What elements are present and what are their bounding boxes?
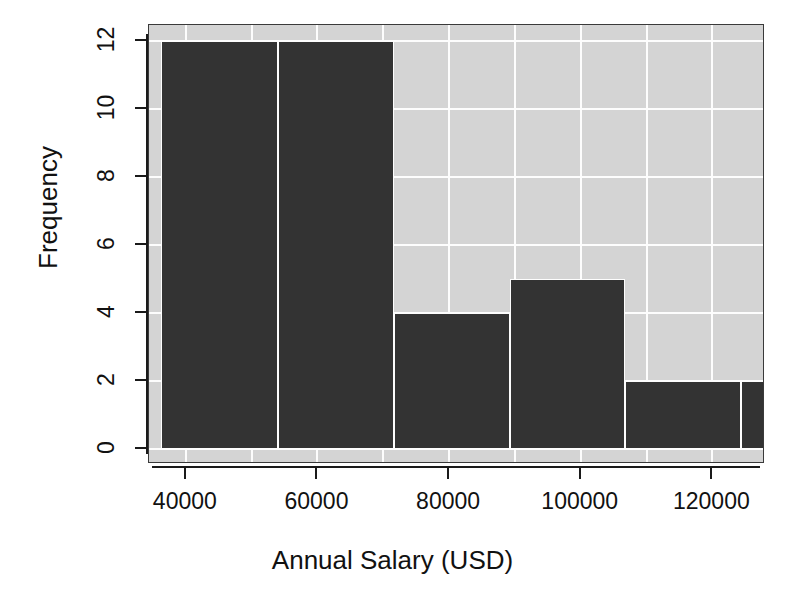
y-tick-label: 4	[93, 289, 120, 333]
y-tick-label: 2	[93, 357, 120, 401]
y-tick-label: 10	[93, 85, 120, 129]
plot-panel	[148, 24, 764, 463]
y-tick-label: 0	[93, 426, 120, 470]
x-tick-label: 60000	[246, 488, 386, 515]
histogram-bar	[394, 313, 510, 449]
y-tick-mark	[135, 39, 146, 41]
y-tick-mark	[135, 379, 146, 381]
x-tick-mark	[579, 467, 581, 479]
y-tick-mark	[135, 243, 146, 245]
x-tick-mark	[315, 467, 317, 479]
x-tick-label: 100000	[510, 488, 650, 515]
x-tick-mark	[184, 467, 186, 479]
y-tick-mark	[135, 107, 146, 109]
y-tick-label: 8	[93, 153, 120, 197]
x-tick-label: 40000	[115, 488, 255, 515]
x-axis-line	[152, 466, 760, 468]
x-tick-label: 80000	[378, 488, 518, 515]
y-axis-title: Frequency	[33, 98, 64, 318]
x-tick-mark	[710, 467, 712, 479]
x-tick-label: 120000	[641, 488, 781, 515]
histogram-bar	[741, 381, 764, 449]
y-tick-mark	[135, 447, 146, 449]
y-tick-mark	[135, 175, 146, 177]
x-tick-mark	[447, 467, 449, 479]
histogram-bar	[161, 41, 278, 449]
x-axis-title: Annual Salary (USD)	[0, 545, 785, 576]
histogram-bar	[625, 381, 741, 449]
histogram-figure: 024681012 400006000080000100000120000 Fr…	[0, 0, 785, 616]
y-axis-line	[146, 34, 148, 454]
histogram-bar	[510, 279, 626, 449]
y-tick-label: 12	[93, 17, 120, 61]
y-tick-mark	[135, 311, 146, 313]
y-tick-label: 6	[93, 221, 120, 265]
histogram-bar	[278, 41, 394, 449]
